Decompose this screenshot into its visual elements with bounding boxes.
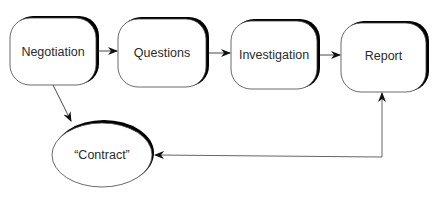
node-investigation[interactable] (231, 19, 320, 89)
node-contract[interactable] (52, 120, 154, 187)
edge-negotiation-contract (53, 85, 71, 121)
node-report[interactable] (341, 21, 429, 92)
edge-report-contract (155, 155, 382, 157)
node-questions[interactable] (118, 17, 209, 87)
flow-diagram (0, 0, 438, 198)
node-negotiation[interactable] (10, 16, 99, 85)
